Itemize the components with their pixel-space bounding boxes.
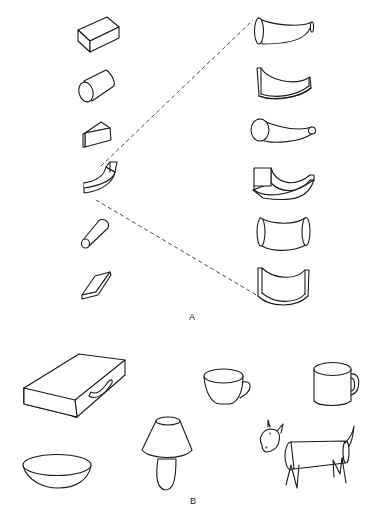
curved-horn-square-shape (253, 168, 314, 200)
mug-shape (314, 363, 359, 406)
curved-block-shape (84, 162, 117, 193)
cone-shape (82, 219, 109, 248)
cylinder-shape (77, 70, 115, 103)
curved-horn-round-shape (251, 119, 316, 142)
curved-channel-symmetric-shape (258, 268, 309, 305)
lamp-shape (142, 417, 192, 490)
goat-shape (260, 420, 354, 488)
curved-horn-elliptic-shape (255, 18, 314, 44)
rectangular-block-shape (78, 17, 119, 52)
bowl-shape (23, 455, 91, 489)
curved-flat-channel-shape (257, 68, 311, 99)
dashed-line-lower (96, 200, 258, 296)
flat-slab-shape (82, 272, 111, 299)
briefcase-shape (24, 354, 125, 417)
wedge-shape (83, 122, 111, 147)
dashed-line-upper (101, 20, 253, 166)
panel-b-label: B (190, 496, 196, 506)
panel-a-label: A (189, 312, 195, 322)
curved-tube-symmetric-shape (257, 218, 310, 251)
geons-figure (0, 0, 379, 516)
teacup-shape (204, 369, 250, 404)
